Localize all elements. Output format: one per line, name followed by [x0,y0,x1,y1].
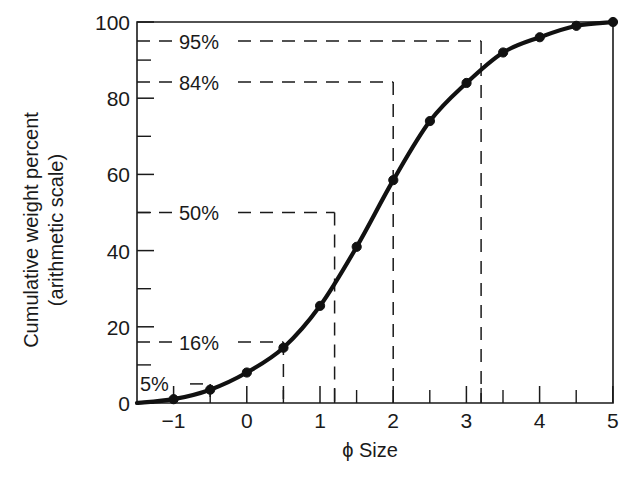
data-point [462,78,471,87]
data-point [206,385,215,394]
y-axis-title-line1: Cumulative weight percent [20,112,42,348]
data-point [499,48,508,57]
data-point [535,33,544,42]
cumulative-curve-points [169,17,618,403]
data-point [608,17,617,26]
y-tick-label-40: 40 [107,240,130,263]
x-tick-label-2: 2 [387,409,399,432]
data-point [169,395,178,404]
y-tick-label-80: 80 [107,87,130,110]
x-tick-label-3: 3 [461,409,473,432]
x-axis-title: ϕ Size [342,439,398,461]
x-tick-label-1: 1 [314,409,326,432]
percentile-label-16: 16% [179,332,219,354]
chart-page: 0 20 40 60 80 100 [0,0,641,477]
y-axis-title-line2: (arithmetic scale) [45,154,67,306]
y-tick-label-20: 20 [107,316,130,339]
data-point [315,301,324,310]
data-point [425,116,434,125]
y-tick-label-60: 60 [107,163,130,186]
data-point [279,343,288,352]
y-axis-tick-labels: 0 20 40 60 80 100 [95,11,130,415]
percentile-label-50: 50% [179,202,219,224]
y-tick-label-100: 100 [95,11,130,34]
data-point [242,368,251,377]
percentile-labels: 95% 84% 50% 16% 5% [140,31,219,396]
x-tick-label-0: 0 [241,409,253,432]
x-tick-label-4: 4 [534,409,546,432]
data-point [389,176,398,185]
percentile-label-95: 95% [179,31,219,53]
data-point [352,242,361,251]
percentile-vertical-lines [210,41,481,403]
percentile-label-84: 84% [179,72,219,94]
cumulative-curve-chart: 0 20 40 60 80 100 [0,0,641,477]
data-point [572,21,581,30]
x-tick-label-5: 5 [607,409,619,432]
x-tick-label-neg1: −1 [162,409,186,432]
y-tick-label-0: 0 [118,392,130,415]
x-axis-tick-labels: −1 0 1 2 3 4 5 [162,409,619,432]
percentile-label-5: 5% [140,373,169,395]
